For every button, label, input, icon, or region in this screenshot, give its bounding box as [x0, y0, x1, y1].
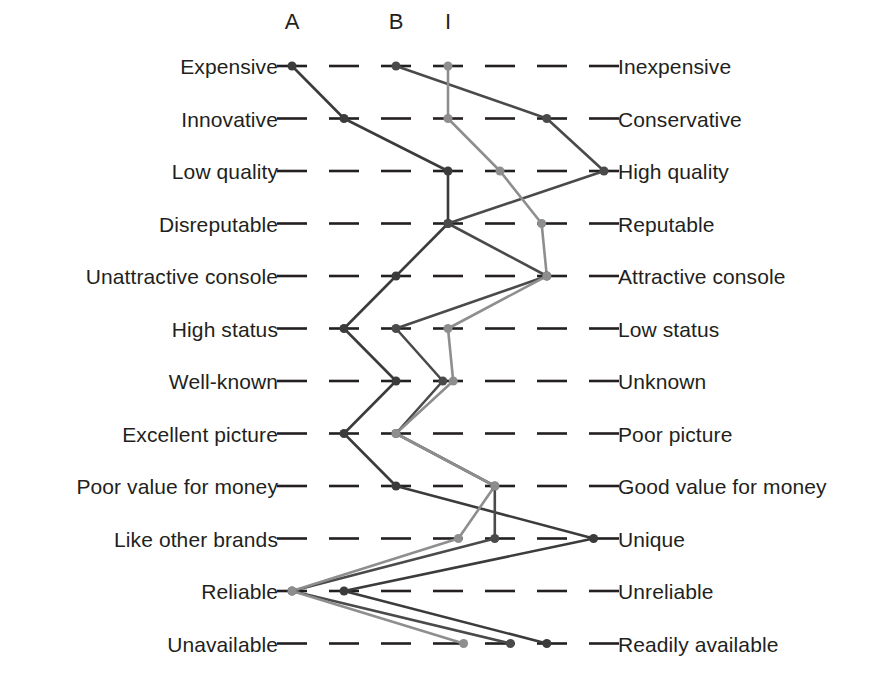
- data-point-a-row-2: [340, 114, 349, 123]
- data-point-a-row-1: [288, 62, 297, 71]
- data-point-a-row-12: [542, 639, 551, 648]
- semantic-differential-chart: ABI ExpensiveInnovativeLow qualityDisrep…: [0, 0, 876, 683]
- series-line-b: [292, 66, 604, 644]
- data-point-b-row-4: [444, 219, 453, 228]
- data-point-i-row-3: [496, 167, 505, 176]
- data-point-b-row-6: [392, 324, 401, 333]
- data-point-i-row-6: [444, 324, 453, 333]
- data-point-i-row-1: [444, 62, 453, 71]
- data-point-a-row-5: [392, 272, 401, 281]
- data-point-i-row-5: [542, 272, 551, 281]
- data-point-a-row-3: [444, 167, 453, 176]
- data-point-b-row-7: [438, 377, 447, 386]
- data-point-i-row-11: [288, 587, 297, 596]
- data-point-b-row-3: [600, 167, 609, 176]
- data-point-i-row-12: [459, 639, 468, 648]
- data-point-i-row-2: [444, 114, 453, 123]
- data-point-i-row-8: [392, 429, 401, 438]
- data-point-b-row-12: [506, 639, 515, 648]
- data-point-i-row-4: [537, 219, 546, 228]
- data-point-i-row-7: [449, 377, 458, 386]
- data-point-i-row-9: [490, 482, 499, 491]
- profile-plot-area: [0, 0, 876, 683]
- data-point-b-row-10: [490, 534, 499, 543]
- series-lines-group: [292, 66, 604, 644]
- data-point-a-row-6: [340, 324, 349, 333]
- series-line-a: [292, 66, 594, 644]
- scale-tick-grid: [277, 66, 619, 644]
- data-point-a-row-11: [340, 587, 349, 596]
- data-point-a-row-10: [589, 534, 598, 543]
- data-point-i-row-10: [454, 534, 463, 543]
- series-markers-group: [288, 62, 609, 649]
- data-point-a-row-8: [340, 429, 349, 438]
- data-point-a-row-7: [392, 377, 401, 386]
- data-point-b-row-2: [542, 114, 551, 123]
- data-point-b-row-1: [392, 62, 401, 71]
- data-point-a-row-9: [392, 482, 401, 491]
